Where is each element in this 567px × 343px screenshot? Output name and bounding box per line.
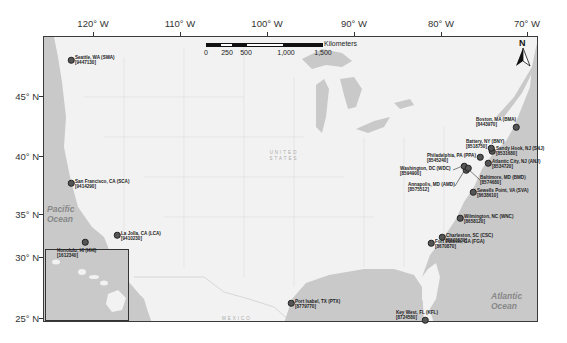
station-label-port-isabel: Port Isabel, TX (PTX)[8779770] (295, 299, 340, 310)
station-label-honolulu: Honolulu, HI (HHI)[1612340] (57, 248, 96, 259)
mexico-label: MEXICO (222, 316, 252, 322)
station-dot-fort-pulaski[interactable] (428, 240, 435, 247)
hawaii-inset (45, 249, 129, 321)
scale-tick: 1,500 (314, 49, 332, 56)
station-dot-port-isabel[interactable] (288, 300, 295, 307)
station-label-seattle: Seattle, WA (SWA)[9447130] (75, 55, 115, 66)
hawaii-islands (46, 250, 130, 322)
latitude-label: 30° N (15, 252, 39, 263)
north-arrow-icon: N (514, 38, 532, 66)
station-label-baltimore: Baltimore, MD (BMD)[8574680] (480, 175, 526, 186)
station-dot-atlantic-city[interactable] (485, 160, 492, 167)
station-dot-baltimore[interactable] (465, 165, 472, 172)
station-map: 120° W 110° W 100° W 90° W 80° W 70° W 4… (0, 0, 567, 343)
latitude-label: 45° N (15, 91, 39, 102)
longitude-label: 100° W (251, 18, 282, 29)
longitude-label: 70° W (514, 18, 540, 29)
latitude-label: 35° N (15, 209, 39, 220)
station-label-wilmington: Wilmington, NC (WNC)[8658120] (464, 214, 513, 225)
station-dot-sewells-point[interactable] (470, 189, 477, 196)
longitude-label: 80° W (428, 18, 454, 29)
atlantic-ocean-label: Atlantic Ocean (491, 292, 537, 311)
latitude-label: 25° N (15, 313, 39, 324)
station-label-key-west: Key West, FL (KFL)[8724580] (396, 310, 438, 321)
station-label-battery: Battery, NY (BNY)[8518750] (466, 139, 504, 150)
station-dot-seattle[interactable] (68, 57, 75, 64)
scale-tick: 500 (240, 49, 252, 56)
station-label-boston: Boston, MA (BMA)[8443970] (476, 117, 516, 128)
scale-tick: 250 (221, 49, 233, 56)
station-label-la-jolla: La Jolla, CA (LCA)[9410230] (121, 231, 161, 242)
latitude-label: 40° N (15, 151, 39, 162)
station-dot-san-francisco[interactable] (68, 180, 75, 187)
station-label-charleston: Charleston, SC (CSC)[8665530] (446, 233, 493, 244)
station-dot-wilmington[interactable] (457, 215, 464, 222)
station-label-san-francisco: San Francisco, CA (SCA)[9414290] (75, 179, 129, 190)
station-label-sewells-point: Sewells Point, VA (SVA)[8638610] (477, 188, 528, 199)
scale-tick: 0 (204, 49, 208, 56)
usa-label: UNITED STATES (264, 150, 304, 162)
station-dot-la-jolla[interactable] (114, 232, 121, 239)
longitude-label: 110° W (165, 18, 196, 29)
north-label: N (519, 38, 526, 48)
station-label-atlantic-city: Atlantic City, NJ (ANJ)[8534720] (492, 159, 540, 170)
longitude-label: 120° W (77, 18, 108, 29)
scale-unit-label: Kilometers (324, 40, 357, 47)
station-label-philadelphia: Philadelphia, PA (PPA)[8545240] (427, 153, 476, 164)
station-dot-philadelphia[interactable] (477, 154, 484, 161)
scale-tick: 1,000 (277, 49, 295, 56)
station-label-washington: Washington, DC (WDC)[8594900] (400, 166, 451, 177)
longitude-label: 90° W (341, 18, 367, 29)
station-dot-honolulu[interactable] (82, 239, 89, 246)
pacific-ocean-label: Pacific Ocean (47, 205, 87, 224)
station-label-annapolis: Annapolis, MD (AMD)[8575512] (408, 182, 455, 193)
